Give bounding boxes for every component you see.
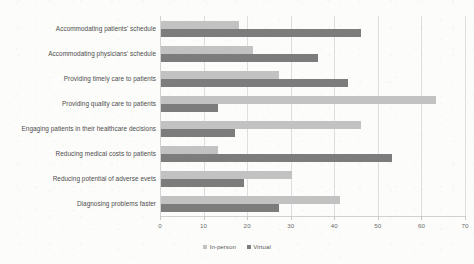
category-label: Engaging patients in their healthcare de… [0, 125, 156, 132]
category-label: Reducing potential of adverse evets [0, 175, 156, 182]
category-label: Diagnosing problems faster [0, 200, 156, 207]
x-axis-tick [378, 216, 379, 220]
x-axis-tick [160, 216, 161, 220]
x-axis-tick [247, 216, 248, 220]
x-axis-line [160, 216, 465, 217]
x-axis-tick-label: 50 [374, 222, 381, 229]
bar-virtual [161, 179, 244, 187]
bar-in-person [161, 121, 361, 129]
x-axis-tick-label: 20 [244, 222, 251, 229]
x-axis-tick-label: 60 [418, 222, 425, 229]
bar-in-person [161, 146, 218, 154]
x-axis-tick [421, 216, 422, 220]
category-label: Providing quality care to patients [0, 100, 156, 107]
bar-in-person [161, 46, 253, 54]
category-label: Accommodating physicians' schedule [0, 50, 156, 57]
legend-item-in-person: In-person [203, 243, 236, 250]
x-axis-tick-label: 70 [461, 222, 468, 229]
x-axis-tick [334, 216, 335, 220]
x-axis-tick [204, 216, 205, 220]
bar-virtual [161, 204, 279, 212]
x-axis-tick-label: 30 [287, 222, 294, 229]
gridline [334, 16, 335, 216]
category-label: Accommodating patients' schedule [0, 25, 156, 32]
category-label: Reducing medical costs to patients [0, 150, 156, 157]
bar-virtual [161, 104, 218, 112]
bar-in-person [161, 96, 436, 104]
gridline [465, 16, 466, 216]
legend-item-virtual: Virtual [247, 243, 271, 250]
category-label: Providing timely care to patients [0, 75, 156, 82]
bar-in-person [161, 171, 292, 179]
legend-swatch-virtual-icon [247, 245, 251, 249]
gridline [378, 16, 379, 216]
bar-virtual [161, 79, 348, 87]
chart-legend: In-person Virtual [0, 243, 474, 250]
legend-label-virtual: Virtual [253, 243, 270, 250]
bar-virtual [161, 54, 318, 62]
x-axis-tick-label: 40 [331, 222, 338, 229]
paper-texture-overlay [0, 0, 474, 264]
bar-virtual [161, 154, 392, 162]
x-axis-tick-label: 10 [200, 222, 207, 229]
bar-in-person [161, 21, 239, 29]
bar-virtual [161, 29, 361, 37]
x-axis-tick [465, 216, 466, 220]
bar-in-person [161, 71, 279, 79]
legend-label-in-person: In-person [210, 243, 236, 250]
bar-in-person [161, 196, 340, 204]
gridline [291, 16, 292, 216]
x-axis-tick-label: 0 [158, 222, 162, 229]
bar-chart: 010203040506070 Accommodating patients' … [0, 0, 474, 264]
bar-virtual [161, 129, 235, 137]
legend-swatch-in-person-icon [203, 245, 207, 249]
gridline [421, 16, 422, 216]
x-axis-tick [291, 216, 292, 220]
